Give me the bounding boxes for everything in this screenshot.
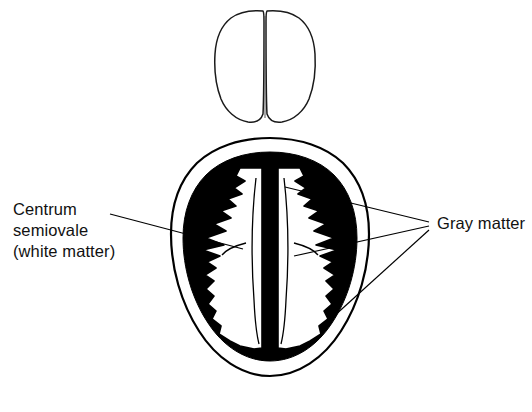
interhemispheric-fissure: [266, 156, 274, 358]
right-hemisphere-outline: [266, 11, 315, 122]
centrum-label-line-2: semiovale: [13, 220, 115, 241]
gray-matter-label: Gray matter: [437, 213, 525, 234]
gray-matter-label-line-1: Gray matter: [437, 213, 525, 234]
centrum-semiovale-label: Centrum semiovale (white matter): [13, 199, 115, 262]
figure-root: Centrum semiovale (white matter) Gray ma…: [0, 0, 532, 412]
left-hemisphere-outline: [215, 11, 264, 122]
superior-brain-outline: [215, 11, 316, 122]
centrum-label-line-3: (white matter): [13, 241, 115, 262]
centrum-label-line-1: Centrum: [13, 199, 115, 220]
axial-brain-section: [171, 138, 369, 376]
